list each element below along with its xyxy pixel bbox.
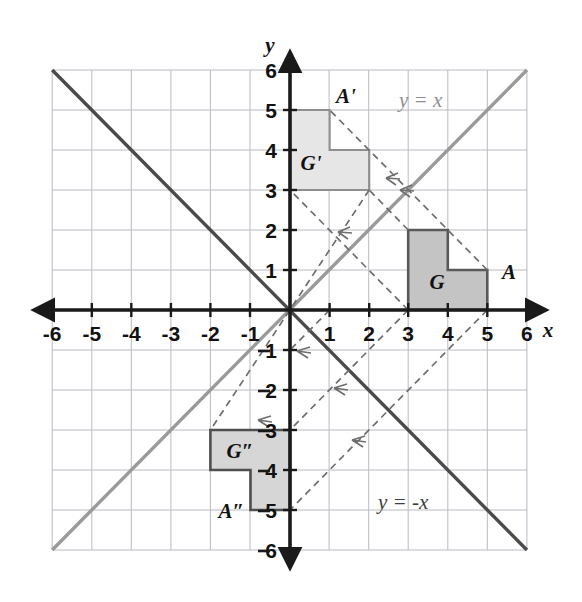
x-tick-label: 4 bbox=[442, 322, 454, 345]
coordinate-plane-figure: -6 -5 -4 -3 -2 -1 1 2 3 4 5 6 6 5 4 3 2 … bbox=[0, 0, 582, 602]
x-tick-label: -6 bbox=[43, 322, 62, 345]
x-tick-label: -4 bbox=[122, 322, 141, 345]
x-tick-label: -2 bbox=[201, 322, 220, 345]
figure-g-prime-label: G' bbox=[301, 151, 322, 175]
x-tick-label: 6 bbox=[521, 322, 533, 345]
figure-g-prime bbox=[290, 110, 369, 190]
y-tick-label: 5 bbox=[265, 99, 277, 122]
y-tick-label: 2 bbox=[265, 219, 277, 242]
y-tick-label: 6 bbox=[265, 59, 277, 82]
x-tick-labels: -6 -5 -4 -3 -2 -1 1 2 3 4 5 6 bbox=[43, 322, 533, 345]
x-tick-label: 5 bbox=[481, 322, 493, 345]
x-tick-label: 3 bbox=[402, 322, 414, 345]
y-axis-label: y bbox=[262, 33, 275, 57]
y-tick-label: 1 bbox=[265, 259, 277, 282]
x-tick-label: -1 bbox=[241, 322, 260, 345]
figure-g-label: G bbox=[429, 270, 444, 294]
line-y-equals-negative-x-label: y = -x bbox=[376, 490, 429, 514]
point-a-double-prime-label: A″ bbox=[216, 499, 244, 523]
coordinate-plot-svg: -6 -5 -4 -3 -2 -1 1 2 3 4 5 6 6 5 4 3 2 … bbox=[0, 0, 582, 602]
x-tick-label: -3 bbox=[162, 322, 181, 345]
figure-g-double-prime-label: G″ bbox=[227, 439, 254, 463]
x-tick-label: -5 bbox=[82, 322, 101, 345]
x-tick-label: 2 bbox=[363, 322, 375, 345]
y-tick-label: 4 bbox=[265, 139, 277, 162]
point-a-label: A bbox=[500, 260, 516, 284]
figure-g bbox=[408, 230, 487, 310]
point-a-prime-label: A' bbox=[334, 84, 356, 108]
x-tick-label: 1 bbox=[324, 322, 336, 345]
y-tick-label: 3 bbox=[265, 179, 277, 202]
x-axis-label: x bbox=[542, 318, 554, 342]
line-y-equals-x-label: y = x bbox=[397, 88, 443, 112]
